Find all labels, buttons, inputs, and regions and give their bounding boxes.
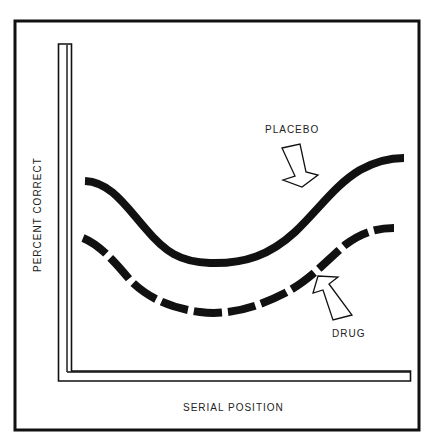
placebo-curve	[85, 158, 404, 263]
outer-frame	[15, 21, 419, 430]
drug-arrow-icon	[313, 276, 352, 320]
drug-label: DRUG	[332, 328, 365, 339]
serial-position-figure: PLACEBO DRUG PERCENT CORRECT SERIAL POSI…	[0, 0, 444, 446]
x-axis-title: SERIAL POSITION	[183, 402, 284, 413]
placebo-label: PLACEBO	[265, 124, 319, 135]
placebo-arrow-icon	[282, 144, 318, 187]
chart-canvas: PLACEBO DRUG PERCENT CORRECT SERIAL POSI…	[0, 0, 444, 446]
y-axis-title: PERCENT CORRECT	[32, 157, 43, 272]
drug-curve	[83, 228, 394, 313]
